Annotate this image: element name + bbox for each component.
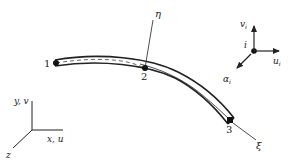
- alpha-arrow-icon: [237, 54, 251, 68]
- node-1-dot: [53, 60, 59, 66]
- z-axis-line: [13, 130, 32, 148]
- node-3-dot: [227, 117, 233, 123]
- u-label: ui: [273, 56, 281, 67]
- z-axis-label: z: [5, 150, 11, 160]
- node-1-label: 1: [44, 58, 50, 69]
- y-axis-label: y, v: [13, 96, 29, 106]
- eta-axis-line: [145, 20, 153, 68]
- global-axes: y, v x, u z: [5, 96, 64, 160]
- xi-axis-line: [233, 123, 256, 140]
- v-label: vi: [240, 19, 247, 30]
- node-2-label: 2: [141, 71, 147, 82]
- x-axis-label: x, u: [47, 134, 64, 144]
- alpha-label: αi: [223, 74, 231, 85]
- node-3-label: 3: [226, 124, 232, 135]
- xi-label: ξ: [256, 140, 262, 151]
- node-i-label: i: [244, 40, 247, 50]
- eta-label: η: [155, 8, 161, 19]
- beam-element-diagram: 1 2 3 η ξ i vi ui αi y, v x, u z: [0, 0, 292, 166]
- node-dof-indicator: i vi ui αi: [223, 19, 281, 85]
